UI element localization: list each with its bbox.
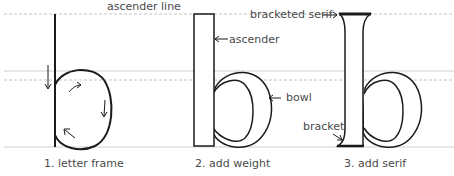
- bracketed-serif-label: bracketed serif: [250, 8, 334, 21]
- step-3-caption: 3. add serif: [344, 157, 407, 170]
- ascender-annotation: [215, 36, 228, 42]
- ascender-label: ascender: [229, 33, 280, 46]
- step-1-caption: 1. letter frame: [44, 157, 124, 170]
- letter-construction-diagram: ascender line 1. letter frame 2. add wei…: [0, 0, 454, 176]
- bracket-annotation: [333, 134, 342, 140]
- step-3-add-serif: [337, 14, 421, 147]
- step-2-caption: 2. add weight: [195, 157, 271, 170]
- bracket-label: bracket: [303, 120, 345, 133]
- ascender-line-label: ascender line: [107, 0, 181, 13]
- step-1-letter-frame: [45, 14, 111, 149]
- ascender-stem: [194, 14, 214, 146]
- bowl-label: bowl: [286, 91, 312, 104]
